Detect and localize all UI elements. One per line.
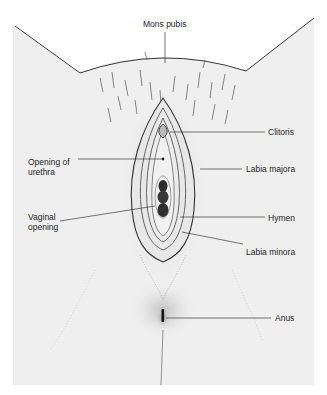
label-vaginal-opening: Vaginal opening [28, 212, 88, 232]
label-line: opening [28, 222, 88, 232]
label-opening-of-urethra: Opening of urethra [28, 157, 88, 177]
anatomy-illustration: Mons pubis Clitoris Opening of urethra L… [0, 0, 327, 395]
label-line: Opening of [28, 157, 88, 167]
label-mons-pubis: Mons pubis [143, 19, 186, 29]
illustration-drawing [0, 0, 327, 395]
label-hymen: Hymen [268, 213, 295, 223]
label-labia-majora: Labia majora [246, 164, 295, 174]
label-labia-minora: Labia minora [246, 247, 295, 257]
label-line: urethra [28, 167, 88, 177]
label-clitoris: Clitoris [268, 127, 294, 137]
label-line: Vaginal [28, 212, 88, 222]
label-anus: Anus [275, 313, 294, 323]
